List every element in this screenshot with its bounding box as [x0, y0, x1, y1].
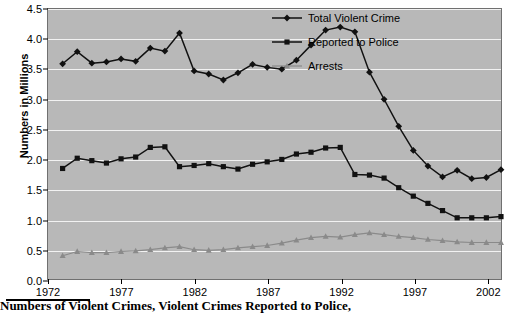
data-point-marker — [425, 201, 430, 206]
data-point-marker — [381, 96, 388, 103]
x-axis-tick-label: 1987 — [256, 286, 280, 298]
x-axis-tick-label: 1977 — [109, 286, 133, 298]
data-point-marker — [483, 174, 490, 181]
data-point-marker — [469, 215, 474, 220]
legend-label: Total Violent Crime — [308, 13, 400, 24]
data-point-marker — [323, 145, 328, 150]
legend-item-1[interactable]: Total Violent Crime — [272, 8, 400, 28]
data-point-marker — [308, 150, 313, 155]
data-point-marker — [284, 39, 289, 44]
data-point-marker — [205, 71, 212, 78]
data-point-marker — [264, 64, 271, 71]
data-point-marker — [440, 208, 445, 213]
data-point-marker — [366, 230, 372, 236]
data-point-marker — [191, 68, 198, 75]
data-point-marker — [192, 163, 197, 168]
data-point-marker — [221, 164, 226, 169]
data-point-marker — [411, 194, 416, 199]
data-point-marker — [177, 164, 182, 169]
data-point-marker — [235, 69, 242, 76]
data-point-marker — [455, 215, 460, 220]
data-point-marker — [235, 166, 240, 171]
data-point-marker — [395, 123, 402, 130]
data-point-marker — [396, 185, 401, 190]
figure-caption: Numbers of Violent Crimes, Violent Crime… — [0, 298, 522, 314]
series-2 — [60, 144, 504, 220]
data-point-marker — [484, 215, 489, 220]
data-point-marker — [103, 59, 110, 66]
legend-label: Reported to Police — [308, 37, 399, 48]
x-axis-tick-label: 2002 — [476, 286, 500, 298]
x-axis-tick-label: 1997 — [403, 286, 427, 298]
data-point-marker — [133, 154, 138, 159]
data-point-marker — [498, 166, 505, 173]
data-point-marker — [381, 176, 386, 181]
legend-item-3[interactable]: Arrests — [272, 56, 400, 76]
x-axis-tick-label: 1992 — [329, 286, 353, 298]
data-point-marker — [338, 145, 343, 150]
data-point-marker — [60, 166, 65, 171]
data-point-marker — [279, 157, 284, 162]
data-point-marker — [75, 156, 80, 161]
data-point-marker — [454, 167, 461, 174]
data-point-marker — [206, 161, 211, 166]
legend-label: Arrests — [308, 61, 343, 72]
x-axis-tick-label: 1972 — [36, 286, 60, 298]
data-point-marker — [220, 77, 227, 84]
data-point-marker — [367, 173, 372, 178]
data-point-marker — [104, 160, 109, 165]
x-axis-tick-label: 1982 — [183, 286, 207, 298]
series-3 — [60, 230, 504, 258]
data-point-marker — [249, 61, 256, 68]
data-point-marker — [89, 158, 94, 163]
data-point-marker — [468, 175, 475, 182]
legend-swatch-icon — [272, 12, 302, 24]
data-point-marker — [118, 56, 125, 63]
data-point-marker — [162, 144, 167, 149]
data-point-marker — [250, 162, 255, 167]
data-point-marker — [284, 15, 291, 22]
chart-legend: Total Violent CrimeReported to PoliceArr… — [272, 8, 400, 80]
legend-item-2[interactable]: Reported to Police — [272, 32, 400, 52]
legend-swatch-icon — [272, 60, 302, 72]
legend-swatch-icon — [272, 36, 302, 48]
data-point-marker — [498, 214, 503, 219]
data-point-marker — [265, 159, 270, 164]
data-point-marker — [352, 172, 357, 177]
data-point-marker — [148, 145, 153, 150]
data-point-marker — [294, 151, 299, 156]
data-point-marker — [118, 156, 123, 161]
